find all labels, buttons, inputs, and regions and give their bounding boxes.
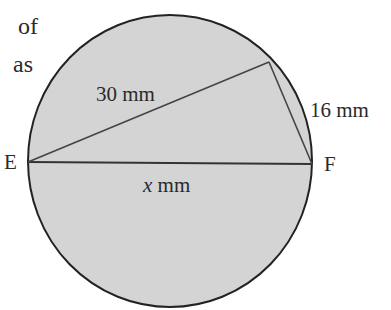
- diagram-stage: of as 30 mm 16 mm E F x mm: [0, 0, 391, 310]
- unit-mm: mm: [152, 173, 190, 197]
- point-F-label: F: [324, 154, 336, 175]
- point-E-label: E: [4, 152, 17, 173]
- label-30mm: 30 mm: [96, 84, 155, 105]
- label-16mm: 16 mm: [310, 100, 369, 121]
- variable-x: x: [143, 173, 152, 197]
- circle: [28, 15, 312, 307]
- question-text-line2: as: [13, 52, 33, 76]
- question-text-line1: of: [18, 14, 38, 38]
- label-x-mm: x mm: [143, 175, 190, 196]
